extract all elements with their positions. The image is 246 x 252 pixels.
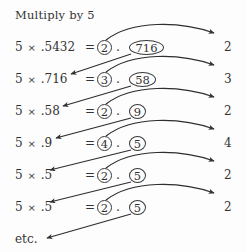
equals-sign: = <box>85 104 95 118</box>
result-digit: 2 <box>224 104 232 118</box>
row-operand: .58 <box>41 104 60 118</box>
circled-fraction-digits: 5 <box>129 168 146 183</box>
circled-units-digit: 2 <box>97 104 112 119</box>
row-operand: .5 <box>41 200 52 214</box>
row-multiplier: 5 <box>15 136 23 150</box>
row-multiplier: 5 <box>15 200 23 214</box>
circled-fraction-digits: 9 <box>129 104 146 119</box>
circled-units-digit: 4 <box>97 136 112 151</box>
row-multiplier: 5 <box>15 104 23 118</box>
carry-arc-row-4 <box>106 120 214 136</box>
circled-fraction-digits: 5 <box>129 200 146 215</box>
carry-down-row-1 <box>71 54 131 74</box>
circled-units-digit: 2 <box>97 168 112 183</box>
row-lhs: 5 × .5 <box>15 168 52 182</box>
row-operand: .5 <box>41 168 52 182</box>
row-operand: .9 <box>41 136 52 150</box>
decimal-point: . <box>116 200 120 214</box>
decimal-point: . <box>116 40 120 54</box>
multiplication-sign-icon: × <box>26 74 36 85</box>
carry-arc-row-2 <box>106 56 214 72</box>
row-lhs: 5 × .5 <box>15 200 52 214</box>
multiplication-sign-icon: × <box>26 106 36 117</box>
circled-fraction-digits: 716 <box>129 40 164 55</box>
multiplication-sign-icon: × <box>26 138 36 149</box>
carry-down-row-4 <box>50 150 131 170</box>
equals-sign: = <box>85 168 95 182</box>
arrow-layer <box>0 0 246 252</box>
decimal-point: . <box>116 168 120 182</box>
equals-sign: = <box>85 72 95 86</box>
carry-down-row-2 <box>63 86 131 106</box>
row-multiplier: 5 <box>15 168 23 182</box>
row-lhs: 5 × .716 <box>15 72 67 86</box>
circled-fraction-digits: 5 <box>129 136 146 151</box>
row-multiplier: 5 <box>15 40 23 54</box>
multiply-by-5-diagram: Multiply by 5 5 × .5432 = 2 . 716 2 5 × … <box>0 0 246 252</box>
equals-sign: = <box>85 40 95 54</box>
result-digit: 4 <box>224 136 232 150</box>
result-digit: 3 <box>224 72 232 86</box>
row-lhs: 5 × .58 <box>15 104 60 118</box>
carry-down-row-6 <box>47 214 131 238</box>
carry-arc-row-6 <box>106 184 214 200</box>
row-operand: .5432 <box>41 40 75 54</box>
decimal-point: . <box>116 136 120 150</box>
page-title: Multiply by 5 <box>15 8 95 22</box>
result-digit: 2 <box>224 200 232 214</box>
carry-down-row-3 <box>56 118 131 138</box>
result-digit: 2 <box>224 40 232 54</box>
equals-sign: = <box>85 200 95 214</box>
multiplication-sign-icon: × <box>26 202 36 213</box>
result-digit: 2 <box>224 168 232 182</box>
carry-down-row-5 <box>50 182 131 202</box>
circled-units-digit: 2 <box>97 40 112 55</box>
etcetera-label: etc. <box>15 232 37 246</box>
circled-units-digit: 2 <box>97 200 112 215</box>
row-lhs: 5 × .9 <box>15 136 52 150</box>
carry-arc-row-1 <box>106 24 214 40</box>
circled-units-digit: 3 <box>97 72 112 87</box>
decimal-point: . <box>116 104 120 118</box>
row-operand: .716 <box>41 72 68 86</box>
row-multiplier: 5 <box>15 72 23 86</box>
equals-sign: = <box>85 136 95 150</box>
multiplication-sign-icon: × <box>26 42 36 53</box>
multiplication-sign-icon: × <box>26 170 36 181</box>
circled-fraction-digits: 58 <box>129 72 156 87</box>
row-lhs: 5 × .5432 <box>15 40 75 54</box>
carry-arc-row-5 <box>106 152 214 168</box>
decimal-point: . <box>116 72 120 86</box>
carry-arc-row-3 <box>106 88 214 104</box>
